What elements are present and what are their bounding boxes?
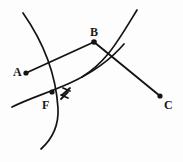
point-label-b: B [90,26,98,38]
geometry-diagram: A B C F [0,0,183,162]
point-dot-b [91,39,97,45]
left-arc [23,13,58,149]
point-label-c: C [164,99,173,111]
segment-ab [26,42,94,73]
point-dot-c [157,93,162,98]
segment-bc [94,42,160,96]
point-dot-a [23,70,28,75]
point-label-a: A [13,66,22,78]
point-dot-f [49,89,54,94]
lightning-bolt-icon [61,88,70,99]
point-label-f: F [42,99,49,111]
